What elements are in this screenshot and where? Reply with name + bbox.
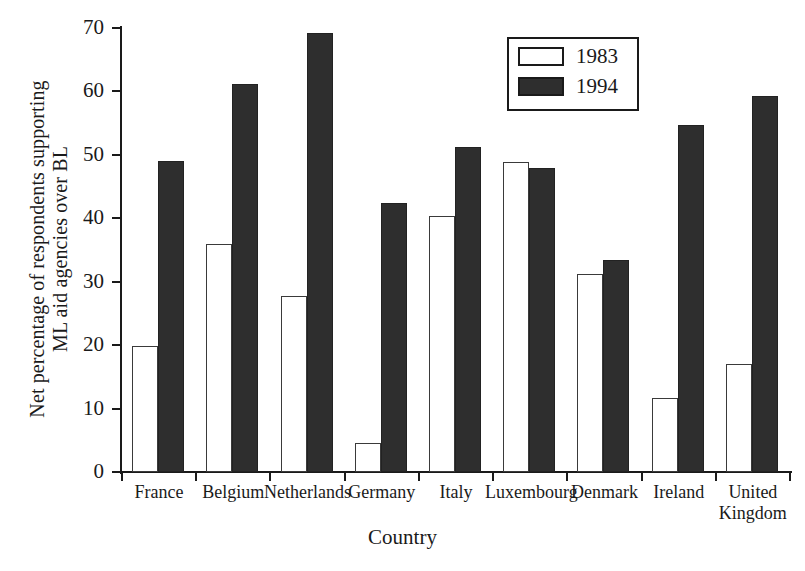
x-tick-5 — [492, 472, 494, 481]
bar-1994-luxembourg — [529, 168, 555, 472]
bar-1983-germany — [355, 443, 381, 472]
bar-1994-united-kingdom — [752, 96, 778, 472]
bar-1994-belgium — [232, 84, 258, 472]
legend: 1983 1994 — [507, 37, 639, 111]
y-tick-label-0: 0 — [52, 461, 104, 482]
x-tick-3 — [344, 472, 346, 481]
legend-label-1994: 1994 — [576, 74, 618, 98]
bar-1983-netherlands — [281, 296, 307, 472]
x-tick-8 — [715, 472, 717, 481]
bar-1983-ireland — [652, 398, 678, 472]
bar-1994-france — [158, 161, 184, 472]
x-tick-0 — [121, 472, 123, 481]
legend-item-1994: 1994 — [518, 76, 634, 98]
bar-1994-ireland — [678, 125, 704, 472]
y-tick-label-50: 50 — [52, 144, 104, 165]
bar-1994-denmark — [603, 260, 629, 472]
x-tick-7 — [641, 472, 643, 481]
y-tick-20 — [112, 344, 121, 346]
x-category-label-8: United Kingdom — [708, 482, 798, 524]
x-tick-2 — [269, 472, 271, 481]
bar-chart: Net percentage of respondents supporting… — [0, 0, 805, 571]
x-tick-1 — [195, 472, 197, 481]
y-tick-50 — [112, 154, 121, 156]
y-tick-70 — [112, 27, 121, 29]
y-tick-label-60: 60 — [52, 80, 104, 101]
y-tick-40 — [112, 217, 121, 219]
y-tick-10 — [112, 408, 121, 410]
bar-1983-luxembourg — [503, 162, 529, 472]
x-tick-9 — [789, 472, 791, 481]
y-tick-30 — [112, 281, 121, 283]
legend-label-1983: 1983 — [576, 44, 618, 68]
y-tick-label-10: 10 — [52, 398, 104, 419]
y-tick-label-40: 40 — [52, 207, 104, 228]
legend-swatch-1994 — [518, 77, 564, 96]
y-tick-0 — [112, 471, 121, 473]
bar-1983-belgium — [206, 244, 232, 472]
y-tick-label-70: 70 — [52, 17, 104, 38]
bar-1994-italy — [455, 147, 481, 472]
y-tick-label-20: 20 — [52, 334, 104, 355]
legend-item-1983: 1983 — [518, 46, 634, 68]
bar-1994-netherlands — [307, 33, 333, 472]
x-tick-4 — [418, 472, 420, 481]
y-tick-60 — [112, 90, 121, 92]
legend-swatch-1983 — [518, 47, 564, 66]
bar-1983-italy — [429, 216, 455, 472]
bar-1994-germany — [381, 203, 407, 472]
y-tick-label-30: 30 — [52, 271, 104, 292]
bar-1983-united-kingdom — [726, 364, 752, 472]
x-tick-6 — [566, 472, 568, 481]
bar-1983-france — [132, 346, 158, 472]
bar-1983-denmark — [577, 274, 603, 472]
x-axis-title: Country — [0, 525, 805, 550]
